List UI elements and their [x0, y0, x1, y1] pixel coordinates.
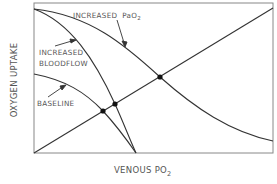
bloodflow-arrowhead-icon	[70, 39, 76, 43]
plot-frame	[34, 3, 273, 153]
label-baseline: BASELINE	[37, 99, 75, 108]
bloodflow-intersection-dot	[112, 101, 117, 106]
x-axis-title: VENOUS PO2	[114, 165, 172, 178]
pao2-intersection-dot	[157, 74, 162, 79]
label-bloodflow: BLOODFLOW	[39, 59, 88, 68]
uptake-line	[34, 8, 273, 153]
baseline-intersection-dot	[100, 108, 105, 113]
increased-pao2-curve	[34, 9, 273, 141]
label-increased-pao2: INCREASEDPaO2	[73, 11, 141, 21]
y-axis-title: OXYGEN UPTAKE	[9, 43, 19, 118]
label-increased: INCREASED	[39, 48, 83, 57]
baseline-curve	[34, 74, 136, 153]
oxygen-uptake-diagram: INCREASEDPaO2 INCREASED BLOODFLOW BASELI…	[0, 0, 277, 184]
baseline-arrowhead-icon	[60, 85, 66, 90]
